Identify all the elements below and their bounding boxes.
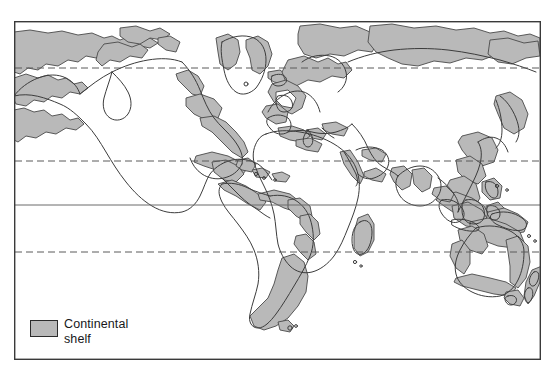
legend-label: Continental shelf <box>64 317 184 346</box>
figure-container: Continental shelf <box>0 0 555 378</box>
legend-swatch <box>30 320 58 337</box>
